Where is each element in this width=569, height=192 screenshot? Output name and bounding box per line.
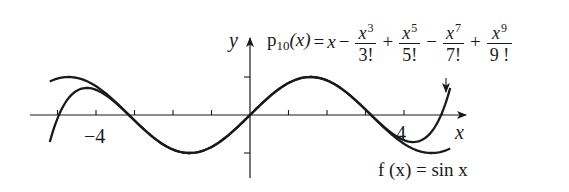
fraction-numerator: x7 [444, 18, 463, 43]
formula-sign: + [470, 31, 481, 53]
tick-label-neg4: −4 [84, 126, 105, 146]
formula-sign: − [339, 31, 350, 53]
y-axis-label: y [229, 30, 238, 50]
sin-function-label: f (x) = sin x [378, 160, 468, 179]
formula-function-name: p [267, 29, 277, 50]
fraction-numerator: x9 [490, 18, 509, 43]
fraction-denominator: 7! [443, 43, 464, 65]
formula-lhs: p10(x) [267, 29, 311, 54]
formula-sign: + [382, 31, 393, 53]
taylor-polynomial-formula: p10(x) = x − x3 3! + x5 5! − x7 7! + x9 … [267, 18, 515, 65]
formula-argument: (x) [290, 29, 311, 50]
x-axis-label: x [455, 122, 464, 142]
formula-fraction: x7 7! [443, 18, 464, 65]
formula-first-term: x [327, 31, 335, 53]
fraction-numerator: x3 [356, 18, 375, 43]
fraction-denominator: 3! [355, 43, 376, 65]
formula-sign: − [426, 31, 437, 53]
formula-fraction: x3 3! [355, 18, 376, 65]
formula-equals: = [314, 31, 325, 53]
fraction-numerator: x5 [400, 18, 419, 43]
fraction-denominator: 9 ! [487, 43, 513, 65]
formula-subscript: 10 [277, 38, 290, 53]
fraction-denominator: 5! [399, 43, 420, 65]
tick-label-pos4: 4 [396, 123, 406, 143]
formula-fraction: x9 9 ! [487, 18, 513, 65]
formula-fraction: x5 5! [399, 18, 420, 65]
